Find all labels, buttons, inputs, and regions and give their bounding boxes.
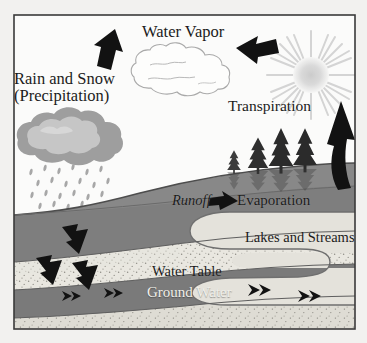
- label-water-vapor: Water Vapor: [142, 23, 224, 40]
- label-rain-and-snow-line2: (Precipitation): [14, 87, 115, 104]
- label-rain-and-snow-line1: Rain and Snow: [14, 69, 115, 88]
- label-runoff: Runoff: [172, 193, 211, 208]
- label-transpiration: Transpiration: [228, 98, 311, 114]
- label-ground-water: Ground Water: [147, 285, 232, 301]
- label-lakes-and-streams: Lakes and Streams: [245, 230, 355, 245]
- label-water-table: Water Table: [152, 264, 222, 279]
- label-evaporation: Evaporation: [237, 193, 310, 209]
- label-rain-and-snow: Rain and Snow (Precipitation): [14, 70, 115, 105]
- diagram-content: [14, 15, 355, 329]
